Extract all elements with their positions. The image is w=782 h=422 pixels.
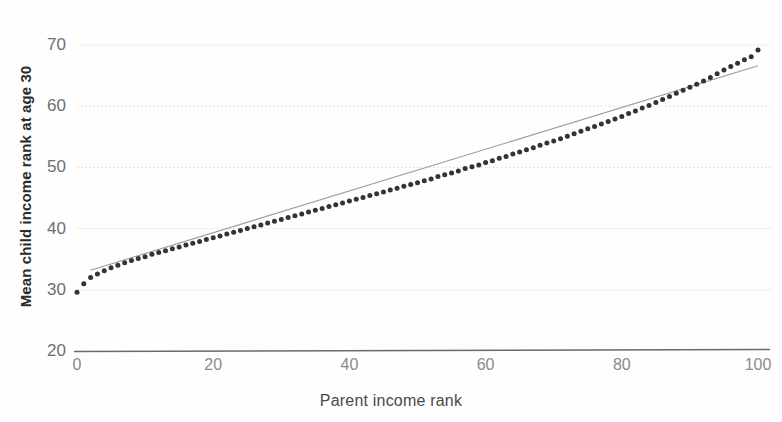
data-point [483, 160, 488, 165]
data-point [292, 213, 297, 218]
data-point [75, 290, 80, 295]
data-point [640, 106, 645, 111]
data-point [170, 246, 175, 251]
data-point [504, 154, 509, 159]
data-point [653, 100, 658, 105]
data-point [286, 215, 291, 220]
data-point [163, 248, 168, 253]
data-point [149, 252, 154, 257]
data-point [701, 79, 706, 84]
data-point [667, 94, 672, 99]
data-point [538, 143, 543, 148]
data-point [721, 68, 726, 73]
data-point [224, 232, 229, 237]
data-point [218, 233, 223, 238]
data-point [388, 188, 393, 193]
data-point [115, 263, 120, 268]
data-point [599, 121, 604, 126]
data-point [347, 199, 352, 204]
data-point [647, 103, 652, 108]
data-point [469, 164, 474, 169]
data-point [279, 217, 284, 222]
data-point [252, 224, 257, 229]
data-point [102, 268, 107, 273]
data-point [735, 61, 740, 66]
data-point [367, 193, 372, 198]
data-point [510, 151, 515, 156]
data-point [299, 211, 304, 216]
data-point [88, 275, 93, 280]
data-point [606, 119, 611, 124]
data-point [578, 129, 583, 134]
data-point [197, 239, 202, 244]
data-point [449, 170, 454, 175]
data-point [211, 235, 216, 240]
trend-line [91, 66, 758, 270]
data-point [408, 182, 413, 187]
data-point [531, 145, 536, 150]
data-point [497, 156, 502, 161]
data-point [572, 131, 577, 136]
data-point [660, 97, 665, 102]
data-point [715, 71, 720, 76]
data-point [422, 178, 427, 183]
data-point [476, 162, 481, 167]
data-point [177, 244, 182, 249]
data-point [626, 111, 631, 116]
chart-container: Mean child income rank at age 30 2030405… [0, 0, 782, 422]
data-point [361, 195, 366, 200]
x-axis-line [74, 350, 770, 352]
data-point [156, 250, 161, 255]
data-point [592, 124, 597, 129]
data-point [429, 177, 434, 182]
data-point [681, 88, 686, 93]
data-point [265, 221, 270, 226]
data-point [306, 210, 311, 215]
data-point [313, 208, 318, 213]
data-point [463, 166, 468, 171]
data-point [136, 256, 141, 261]
data-point [109, 265, 114, 270]
data-point [320, 206, 325, 211]
data-point [551, 139, 556, 144]
data-point [143, 254, 148, 259]
data-point [687, 85, 692, 90]
data-point [354, 197, 359, 202]
data-point [619, 114, 624, 119]
x-axis-title: Parent income rank [0, 392, 782, 410]
data-point [544, 140, 549, 145]
data-point [245, 226, 250, 231]
data-point [122, 260, 127, 265]
data-point [756, 47, 761, 52]
data-point [742, 57, 747, 62]
data-point [374, 191, 379, 196]
data-point [340, 200, 345, 205]
data-point [333, 202, 338, 207]
data-point [95, 271, 100, 276]
data-point [442, 172, 447, 177]
data-point [694, 82, 699, 87]
data-point [401, 184, 406, 189]
data-point [558, 136, 563, 141]
data-point [272, 219, 277, 224]
data-point [326, 204, 331, 209]
data-point [674, 91, 679, 96]
data-point [395, 186, 400, 191]
scatter-plot-area [0, 0, 782, 422]
data-point [456, 169, 461, 174]
data-point [524, 147, 529, 152]
data-point [204, 237, 209, 242]
data-point [490, 158, 495, 163]
data-point [231, 230, 236, 235]
data-point [633, 109, 638, 114]
data-point [585, 126, 590, 131]
data-point [258, 222, 263, 227]
data-point [190, 241, 195, 246]
data-point [81, 281, 86, 286]
data-point [612, 117, 617, 122]
data-point [708, 75, 713, 80]
data-point [183, 243, 188, 248]
data-point [435, 174, 440, 179]
data-point [238, 228, 243, 233]
data-point [129, 258, 134, 263]
